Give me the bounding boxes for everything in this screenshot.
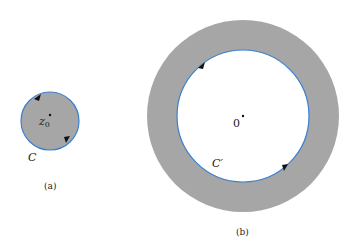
origin-label: 0 (233, 117, 240, 130)
caption-a: (a) (44, 181, 56, 191)
contour-c-label: C (28, 151, 37, 164)
contour-diagram: z0 C (a) 0 C′ (b) (0, 0, 357, 250)
origin-point (242, 115, 244, 117)
figure-a: z0 C (a) (21, 92, 79, 191)
figure-b: 0 C′ (b) (147, 20, 339, 237)
caption-b: (b) (236, 227, 249, 237)
disk-a (21, 92, 79, 150)
contour-c-prime-label: C′ (212, 157, 223, 170)
point-z0 (49, 114, 51, 116)
